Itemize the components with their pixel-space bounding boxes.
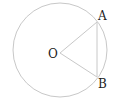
segment-OA (60, 22, 97, 53)
label-B: B (98, 77, 107, 91)
label-O: O (48, 47, 58, 61)
circle-diagram: O A B (0, 0, 116, 99)
circle (13, 3, 107, 97)
segment-OB (60, 53, 97, 77)
label-A: A (97, 9, 107, 23)
